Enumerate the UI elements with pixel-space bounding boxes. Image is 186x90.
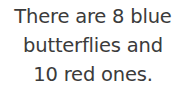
- statement-text: There are 8 blue butterflies and 10 red …: [14, 2, 171, 89]
- text-card: There are 8 blue butterflies and 10 red …: [0, 0, 186, 90]
- statement-line-3: 10 red ones.: [14, 60, 171, 89]
- statement-line-2: butterflies and: [14, 31, 171, 60]
- statement-line-1: There are 8 blue: [14, 2, 171, 31]
